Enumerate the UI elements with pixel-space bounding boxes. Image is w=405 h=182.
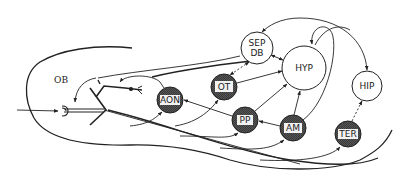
region-label-ob: OB xyxy=(54,75,68,85)
node-ter: TER xyxy=(335,121,361,147)
svg-text:TER: TER xyxy=(338,129,356,139)
svg-text:OT: OT xyxy=(218,82,231,92)
svg-text:SEP: SEP xyxy=(249,38,266,48)
node-pp: PP xyxy=(232,107,258,133)
svg-text:AON: AON xyxy=(160,95,180,105)
node-sep-db: SEP DB xyxy=(241,32,273,64)
svg-text:DB: DB xyxy=(250,48,263,58)
node-aon: AON xyxy=(157,87,183,113)
input-fiber xyxy=(17,110,58,111)
svg-text:HYP: HYP xyxy=(295,63,313,73)
olfactory-pathway-diagram: OB xyxy=(0,0,405,182)
svg-text:AM: AM xyxy=(286,123,300,133)
brain-outline xyxy=(26,47,392,169)
node-ot: OT xyxy=(211,74,237,100)
node-am: AM xyxy=(280,115,306,141)
svg-text:HIP: HIP xyxy=(360,81,375,91)
node-hyp: HYP xyxy=(282,46,326,90)
node-hip: HIP xyxy=(352,71,382,101)
svg-text:PP: PP xyxy=(240,115,251,125)
